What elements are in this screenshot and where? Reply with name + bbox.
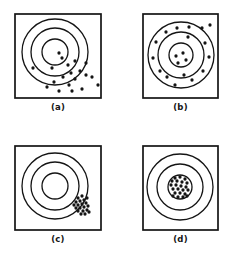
shot-mark bbox=[185, 194, 188, 197]
shot-mark bbox=[183, 177, 186, 180]
target-diagram-b bbox=[142, 13, 219, 99]
shot-mark bbox=[31, 66, 34, 69]
shot-mark bbox=[176, 187, 179, 190]
shot-mark bbox=[87, 210, 90, 213]
shot-mark bbox=[82, 198, 85, 201]
shot-mark bbox=[81, 209, 84, 212]
panel-caption-d: (d) bbox=[142, 235, 219, 244]
shot-mark bbox=[61, 75, 64, 78]
shot-mark bbox=[96, 83, 99, 86]
shot-mark bbox=[57, 89, 60, 92]
shot-mark bbox=[78, 199, 81, 202]
shot-mark bbox=[187, 25, 190, 28]
shot-mark bbox=[76, 209, 79, 212]
target-diagram-a bbox=[14, 13, 102, 99]
shot-mark bbox=[66, 63, 69, 66]
panel-frame-d bbox=[143, 146, 218, 230]
shot-mark bbox=[174, 54, 177, 57]
shot-mark bbox=[181, 51, 184, 54]
shot-mark bbox=[170, 179, 173, 182]
shot-mark bbox=[85, 196, 88, 199]
shot-mark bbox=[176, 195, 179, 198]
shot-mark bbox=[73, 59, 76, 62]
shot-mark bbox=[165, 75, 168, 78]
shot-mark bbox=[201, 69, 204, 72]
shot-mark bbox=[52, 80, 55, 83]
shot-mark bbox=[80, 194, 83, 197]
shot-mark bbox=[151, 56, 154, 59]
shot-mark bbox=[70, 89, 73, 92]
shot-mark bbox=[73, 77, 76, 80]
shot-mark bbox=[86, 204, 89, 207]
shot-mark bbox=[175, 179, 178, 182]
shot-mark bbox=[171, 194, 174, 197]
shot-mark bbox=[203, 41, 206, 44]
shot-mark bbox=[176, 61, 179, 64]
shot-mark bbox=[173, 176, 176, 179]
target-panel-b bbox=[142, 13, 219, 99]
shot-mark bbox=[184, 185, 187, 188]
shot-mark bbox=[72, 203, 75, 206]
shot-mark bbox=[84, 73, 87, 76]
shot-mark bbox=[79, 212, 82, 215]
shot-mark bbox=[45, 85, 48, 88]
panel-caption-a: (a) bbox=[14, 103, 102, 112]
shot-mark bbox=[185, 181, 188, 184]
shot-mark bbox=[190, 78, 193, 81]
accuracy-precision-figure: (a) (b) (c) bbox=[0, 0, 239, 257]
shot-mark bbox=[82, 205, 85, 208]
shot-mark bbox=[186, 188, 189, 191]
panel-caption-c: (c) bbox=[14, 235, 102, 244]
shot-mark bbox=[173, 83, 176, 86]
shot-mark bbox=[178, 191, 181, 194]
shot-mark bbox=[154, 40, 157, 43]
shot-mark bbox=[60, 56, 63, 59]
target-diagram-c bbox=[14, 145, 102, 231]
shot-mark bbox=[178, 175, 181, 178]
shot-mark bbox=[175, 26, 178, 29]
shot-mark bbox=[80, 87, 83, 90]
shot-mark bbox=[208, 23, 211, 26]
shot-mark bbox=[174, 183, 177, 186]
shot-mark bbox=[76, 203, 79, 206]
shot-mark bbox=[173, 191, 176, 194]
shot-mark bbox=[184, 58, 187, 61]
panel-frame-b bbox=[143, 14, 218, 98]
shot-mark bbox=[182, 73, 185, 76]
shot-mark bbox=[74, 200, 77, 203]
shot-mark bbox=[207, 55, 210, 58]
shot-mark bbox=[84, 61, 87, 64]
target-panel-c bbox=[14, 145, 102, 231]
shot-mark bbox=[74, 206, 77, 209]
shot-mark bbox=[180, 180, 183, 183]
shot-mark bbox=[76, 196, 79, 199]
shot-mark bbox=[200, 26, 203, 29]
shot-mark bbox=[69, 71, 72, 74]
target-panel-d bbox=[142, 145, 219, 231]
shot-mark bbox=[164, 30, 167, 33]
shot-mark bbox=[50, 66, 53, 69]
target-panel-a bbox=[14, 13, 102, 99]
shot-mark bbox=[158, 69, 161, 72]
shot-mark bbox=[67, 83, 70, 86]
shot-mark bbox=[78, 69, 81, 72]
shot-mark bbox=[179, 184, 182, 187]
panel-caption-b: (b) bbox=[142, 103, 219, 112]
shot-mark bbox=[171, 187, 174, 190]
shot-mark bbox=[83, 212, 86, 215]
shot-mark bbox=[181, 195, 184, 198]
target-diagram-d bbox=[142, 145, 219, 231]
shot-mark bbox=[186, 35, 189, 38]
shot-mark bbox=[169, 183, 172, 186]
shot-mark bbox=[90, 75, 93, 78]
shot-mark bbox=[181, 188, 184, 191]
shot-mark bbox=[80, 202, 83, 205]
shot-mark bbox=[84, 201, 87, 204]
shot-mark bbox=[57, 51, 60, 54]
shot-mark bbox=[78, 206, 81, 209]
